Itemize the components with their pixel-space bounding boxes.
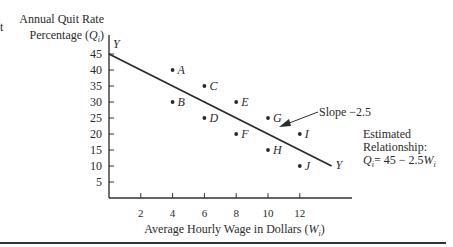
data-point-i: I [298,127,310,141]
data-point-b: B [171,95,186,109]
data-point-g: G [266,111,282,125]
data-point-j: J [298,159,311,173]
svg-text:F: F [240,127,249,141]
y-tick-label: 35 [90,79,102,93]
bottom-rule [0,242,446,244]
svg-text:I: I [304,127,310,141]
x-tick-label: 4 [170,207,176,219]
x-tick-label: 12 [294,207,305,219]
y-tick-label: 30 [90,95,102,109]
svg-text:H: H [272,143,283,157]
estimated-line [109,54,332,166]
y-tick-label: 20 [90,127,102,141]
x-tick-label: 8 [233,207,239,219]
y-tick-label: 25 [90,111,102,125]
x-tick-label: 6 [202,207,208,219]
svg-text:G: G [273,111,282,125]
svg-text:B: B [178,95,186,109]
regression-line: YY [109,37,344,172]
y-tick-label: 40 [90,63,102,77]
scatter-plot: 5101520253035404524681012 YY ABCDEFGHIJ [0,0,453,247]
data-point-c: C [203,79,219,93]
data-point-e: E [234,95,249,109]
axes: 5101520253035404524681012 [90,35,352,219]
relationship-annotation: Estimated Relationship: Qi= 45 − 2.5Wi [363,128,436,171]
y-tick-label: 45 [90,47,102,61]
data-point-f: F [234,127,249,141]
data-point-d: D [203,111,219,125]
data-points: ABCDEFGHIJ [171,63,311,173]
y-tick-label: 15 [90,143,102,157]
svg-text:C: C [209,79,218,93]
svg-text:E: E [240,95,249,109]
x-tick-label: 10 [263,207,275,219]
y-tick-label: 5 [96,175,102,189]
line-end-label: Y [336,158,344,172]
svg-text:A: A [177,63,186,77]
relationship-equation: Qi= 45 − 2.5Wi [363,154,436,171]
svg-text:J: J [305,159,311,173]
line-start-label: Y [113,37,121,51]
data-point-a: A [171,63,186,77]
slope-annotation: Slope −2.5 [319,105,371,120]
y-tick-label: 10 [90,159,102,173]
x-axis-label: Average Hourly Wage in Dollars (Wi) [0,222,453,238]
svg-text:D: D [208,111,218,125]
x-tick-label: 2 [138,207,144,219]
data-point-h: H [266,143,283,157]
